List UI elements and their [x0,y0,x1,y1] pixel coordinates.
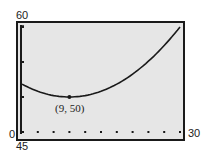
x-tick-dot [84,131,86,133]
x-tick-dot [132,131,134,133]
y-tick [22,96,24,98]
y-tick [22,61,24,63]
plot-area [0,0,208,152]
x-tick-dot [116,131,118,133]
y-tick [22,26,24,28]
x-tick-dot [53,131,55,133]
x-tick-dot [147,131,149,133]
x-tick-dot [21,131,23,133]
x-tick-dot [179,131,181,133]
vertex-annotation: (9, 50) [55,103,84,114]
x-tick-dot [37,131,39,133]
x-tick-dot [68,131,70,133]
x-tick-dot [100,131,102,133]
plot-frame [17,22,184,140]
x-tick-dot [163,131,165,133]
vertex-point [67,95,71,99]
